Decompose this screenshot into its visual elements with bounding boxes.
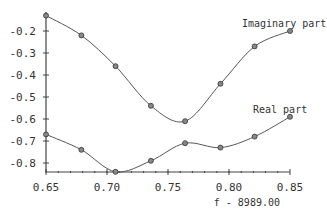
data-point — [113, 64, 118, 69]
chart: -0.2-0.3-0.4-0.5-0.6-0.7-0.80.650.700.75… — [0, 0, 327, 218]
plot-area: -0.2-0.3-0.4-0.5-0.6-0.7-0.80.650.700.75… — [0, 0, 327, 218]
x-tick-label: 0.85 — [277, 181, 304, 194]
data-point — [288, 29, 293, 34]
legend-imaginary-part: Imaginary part — [242, 18, 326, 29]
y-tick-label: -0.2 — [10, 25, 37, 38]
y-tick-label: -0.3 — [10, 47, 37, 60]
data-point — [44, 132, 49, 137]
x-axis-label: f - 8989.00 — [214, 197, 280, 208]
data-point — [148, 103, 153, 108]
data-point — [252, 44, 257, 49]
data-point — [218, 81, 223, 86]
data-point — [79, 147, 84, 152]
legend-real-part: Real part — [253, 104, 307, 115]
data-point — [44, 13, 49, 18]
y-tick-label: -0.8 — [10, 157, 37, 170]
data-point — [218, 145, 223, 150]
x-tick-label: 0.80 — [216, 181, 243, 194]
data-point — [252, 134, 257, 139]
y-tick-label: -0.7 — [10, 135, 37, 148]
data-point — [288, 114, 293, 119]
x-tick-label: 0.65 — [33, 181, 60, 194]
data-point — [183, 141, 188, 146]
data-point — [148, 158, 153, 163]
y-tick-label: -0.5 — [10, 91, 37, 104]
data-point — [79, 33, 84, 38]
x-tick-label: 0.75 — [155, 181, 182, 194]
data-point — [113, 169, 118, 174]
curve-real — [46, 117, 290, 172]
y-tick-label: -0.4 — [10, 69, 37, 82]
data-point — [183, 119, 188, 124]
x-tick-label: 0.70 — [94, 181, 121, 194]
y-tick-label: -0.6 — [10, 113, 37, 126]
